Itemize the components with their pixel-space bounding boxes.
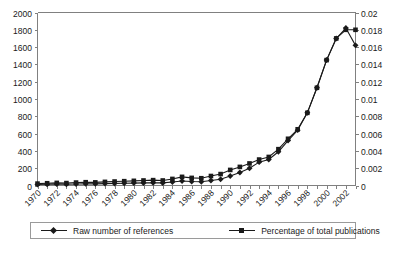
- square-marker-icon: [276, 147, 281, 152]
- square-marker-icon: [247, 161, 252, 166]
- chart-legend: Raw number of references Percentage of t…: [30, 222, 356, 239]
- series-line: [38, 30, 356, 184]
- square-marker-icon: [35, 181, 40, 186]
- square-marker-icon: [83, 180, 88, 185]
- legend-entry-percentage-of-total-publications: Percentage of total publications: [229, 226, 380, 236]
- series-percentage-of-total-publications: [35, 28, 358, 186]
- chart-plot-area: 020040060080010001200140016001800200000.…: [0, 0, 400, 253]
- y-axis-right-tick-label: 0.002: [361, 164, 383, 174]
- x-axis-tick-label: 1988: [195, 188, 216, 209]
- x-axis-tick-label: 1996: [272, 188, 293, 209]
- square-marker-icon: [189, 176, 194, 181]
- x-axis-tick-label: 1986: [176, 188, 197, 209]
- diamond-marker-icon: [227, 173, 233, 179]
- y-axis-left-tick-label: 0: [27, 182, 32, 192]
- y-axis-right-tick-label: 0: [361, 182, 366, 192]
- y-axis-right-tick-label: 0.012: [361, 78, 383, 88]
- diamond-marker-icon: [237, 170, 243, 176]
- square-marker-icon: [112, 179, 117, 184]
- square-marker-icon: [344, 28, 349, 33]
- figure-caption: [2, 244, 398, 253]
- square-marker-icon: [229, 226, 255, 235]
- diamond-marker-icon: [41, 226, 67, 235]
- x-axis-tick-label: 1992: [234, 188, 255, 209]
- square-marker-icon: [218, 172, 223, 177]
- diamond-marker-icon: [247, 165, 253, 171]
- square-marker-icon: [295, 127, 300, 132]
- square-marker-icon: [228, 168, 233, 173]
- y-axis-right-tick-label: 0.008: [361, 112, 383, 122]
- y-axis-left-tick-label: 200: [18, 164, 32, 174]
- y-axis-right-tick-label: 0.016: [361, 43, 383, 53]
- x-axis-tick-label: 1990: [214, 188, 235, 209]
- square-marker-icon: [353, 28, 358, 33]
- y-axis-right-tick-label: 0.018: [361, 26, 383, 36]
- y-axis-left-tick-label: 1200: [13, 78, 32, 88]
- y-axis-left-tick-label: 600: [18, 130, 32, 140]
- square-marker-icon: [151, 178, 156, 183]
- y-axis-left-tick-label: 1600: [13, 43, 32, 53]
- y-axis-left-tick-label: 2000: [13, 9, 32, 19]
- x-axis-tick-label: 1994: [253, 188, 274, 209]
- square-marker-icon: [170, 177, 175, 182]
- square-marker-icon: [103, 180, 108, 185]
- square-marker-icon: [64, 181, 69, 186]
- y-axis-right-tick-label: 0.004: [361, 147, 383, 157]
- square-marker-icon: [209, 174, 214, 179]
- square-marker-icon: [305, 111, 310, 116]
- series-line: [38, 28, 356, 184]
- square-marker-icon: [180, 175, 185, 180]
- y-axis-left-tick-label: 1400: [13, 60, 32, 70]
- square-marker-icon: [199, 176, 204, 181]
- square-marker-icon: [160, 178, 165, 183]
- y-axis-right-tick-label: 0.006: [361, 130, 383, 140]
- x-axis-tick-label: 1972: [41, 188, 62, 209]
- square-marker-icon: [122, 179, 127, 184]
- x-axis-tick-label: 2002: [330, 188, 351, 209]
- y-axis-right-tick-label: 0.014: [361, 60, 383, 70]
- square-marker-icon: [45, 181, 50, 186]
- square-marker-icon: [238, 165, 243, 170]
- y-axis-right-tick-label: 0.02: [361, 9, 378, 19]
- x-axis-tick-label: 1978: [99, 188, 120, 209]
- x-axis-tick-label: 1980: [118, 188, 139, 209]
- x-axis-tick-label: 1998: [291, 188, 312, 209]
- square-marker-icon: [74, 180, 79, 185]
- x-axis-tick-label: 2000: [311, 188, 332, 209]
- legend-label: Raw number of references: [73, 226, 173, 236]
- chart-figure: 020040060080010001200140016001800200000.…: [0, 0, 400, 253]
- y-axis-left-tick-label: 400: [18, 147, 32, 157]
- square-marker-icon: [54, 181, 59, 186]
- legend-label: Percentage of total publications: [261, 226, 380, 236]
- square-marker-icon: [257, 157, 262, 162]
- x-axis-tick-label: 1970: [22, 188, 43, 209]
- square-marker-icon: [324, 58, 329, 63]
- square-marker-icon: [93, 180, 98, 185]
- square-marker-icon: [141, 178, 146, 183]
- y-axis-left-tick-label: 800: [18, 112, 32, 122]
- square-marker-icon: [286, 136, 291, 141]
- y-axis-right-tick-label: 0.01: [361, 95, 378, 105]
- x-axis-tick-label: 1974: [60, 188, 81, 209]
- x-axis-tick-label: 1984: [156, 188, 177, 209]
- legend-entry-raw-number-of-references: Raw number of references: [41, 226, 173, 236]
- diamond-marker-icon: [208, 178, 214, 184]
- x-axis-tick-label: 1976: [79, 188, 100, 209]
- square-marker-icon: [266, 155, 271, 160]
- square-marker-icon: [315, 85, 320, 90]
- square-marker-icon: [334, 36, 339, 41]
- diamond-marker-icon: [218, 176, 224, 182]
- x-axis-tick-label: 1982: [137, 188, 158, 209]
- y-axis-left-tick-label: 1800: [13, 26, 32, 36]
- square-marker-icon: [132, 179, 137, 184]
- y-axis-left-tick-label: 1000: [13, 95, 32, 105]
